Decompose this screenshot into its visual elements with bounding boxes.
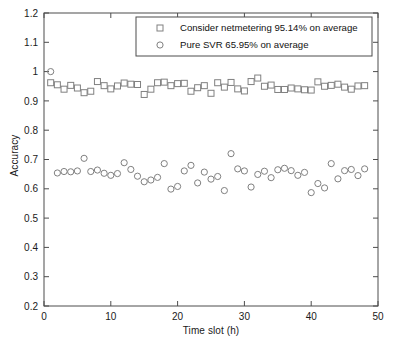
data-point: [134, 173, 140, 179]
data-point: [121, 160, 127, 166]
data-point: [188, 162, 194, 168]
data-point: [61, 86, 67, 92]
data-point: [148, 86, 154, 92]
data-point: [342, 84, 348, 90]
data-point: [155, 80, 161, 86]
x-axis-tick-label: 20: [172, 311, 184, 322]
data-point: [74, 168, 80, 174]
legend-label: Consider netmetering 95.14% on average: [180, 22, 358, 33]
x-axis-tick-label: 0: [41, 311, 47, 322]
data-point: [161, 161, 167, 167]
data-point: [348, 86, 354, 92]
x-axis-tick-label: 10: [105, 311, 117, 322]
data-point: [255, 75, 261, 81]
data-point: [88, 168, 94, 174]
data-point: [261, 83, 267, 89]
data-point: [201, 83, 207, 89]
data-point: [54, 82, 60, 88]
data-point: [68, 82, 74, 88]
data-point: [154, 174, 160, 180]
data-point: [235, 86, 241, 92]
y-axis-tick-label: 0.2: [24, 301, 38, 312]
data-point: [228, 151, 234, 157]
y-axis-tick-label: 1.2: [24, 8, 38, 19]
plot-frame: [44, 13, 378, 306]
data-point: [208, 176, 214, 182]
data-point: [141, 179, 147, 185]
data-point: [94, 167, 100, 173]
data-point: [308, 190, 314, 196]
data-point: [175, 183, 181, 189]
data-point: [241, 168, 247, 174]
data-point: [54, 170, 60, 176]
data-point: [208, 90, 214, 96]
data-point: [201, 169, 207, 175]
data-point: [221, 84, 227, 90]
data-point: [161, 79, 167, 85]
data-point: [355, 173, 361, 179]
y-axis-tick-label: 1.1: [24, 37, 38, 48]
data-point: [181, 80, 187, 86]
data-point: [335, 176, 341, 182]
data-point: [288, 168, 294, 174]
data-point: [281, 86, 287, 92]
data-point: [328, 82, 334, 88]
data-point: [114, 83, 120, 89]
y-axis-tick-label: 0.9: [24, 96, 38, 107]
data-point: [321, 185, 327, 191]
data-point: [175, 81, 181, 87]
data-point: [101, 83, 107, 89]
y-axis-tick-label: 0.8: [24, 125, 38, 136]
data-point: [181, 168, 187, 174]
data-point: [295, 86, 301, 92]
data-point: [88, 88, 94, 94]
data-point: [268, 82, 274, 88]
x-axis-tick-label: 40: [306, 311, 318, 322]
data-point: [235, 166, 241, 172]
data-point: [335, 81, 341, 87]
data-point: [362, 166, 368, 172]
data-point: [101, 170, 107, 176]
data-point: [355, 83, 361, 89]
data-point: [215, 173, 221, 179]
series-netmetering: [48, 75, 368, 97]
data-point: [308, 87, 314, 93]
data-point: [48, 80, 54, 86]
data-point: [268, 175, 274, 181]
y-axis-tick-label: 0.7: [24, 154, 38, 165]
data-point: [81, 155, 87, 161]
data-point: [61, 168, 67, 174]
data-point: [108, 86, 114, 92]
data-point: [261, 168, 267, 174]
y-axis-tick-label: 0.4: [24, 242, 38, 253]
scatter-chart-figure: Accuracy Time slot (h) 0.20.30.40.50.60.…: [0, 0, 398, 350]
data-point: [255, 171, 261, 177]
y-axis-tick-label: 0.5: [24, 213, 38, 224]
legend-label: Pure SVR 65.95% on average: [180, 39, 309, 50]
data-point: [108, 172, 114, 178]
y-axis-tick-label: 0.3: [24, 271, 38, 282]
data-point: [315, 180, 321, 186]
data-point: [121, 80, 127, 86]
data-point: [215, 80, 221, 86]
data-point: [128, 81, 134, 87]
data-point: [68, 169, 74, 175]
data-point: [275, 167, 281, 173]
data-point: [128, 166, 134, 172]
data-point: [328, 161, 334, 167]
data-point: [168, 186, 174, 192]
data-point: [362, 83, 368, 89]
data-point: [275, 86, 281, 92]
x-axis-tick-label: 30: [239, 311, 251, 322]
data-point: [74, 85, 80, 91]
data-point: [81, 90, 87, 96]
data-point: [148, 177, 154, 183]
data-point: [114, 170, 120, 176]
data-point: [281, 165, 287, 171]
data-point: [221, 187, 227, 193]
data-point: [302, 87, 308, 93]
data-point: [195, 85, 201, 91]
data-point: [228, 79, 234, 85]
data-point: [141, 91, 147, 97]
y-axis-tick-label: 1: [32, 66, 38, 77]
